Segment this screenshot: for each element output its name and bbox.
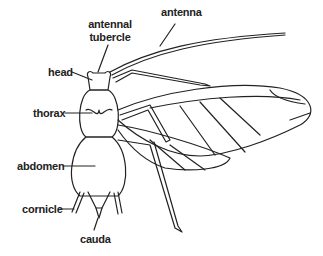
label-head: head [48,66,73,78]
label-thorax: thorax [33,107,65,119]
label-cauda: cauda [80,233,111,245]
aphid-illustration [0,0,323,256]
label-abdomen: abdomen [17,160,65,172]
label-antenna: antenna [161,6,202,18]
label-antennal-tubercle-line2: tubercle [80,31,140,43]
label-cornicle: cornicle [22,203,63,215]
label-antennal-tubercle-line1: antennal [80,18,140,30]
aphid-diagram: antenna antennal tubercle head thorax ab… [0,0,323,256]
